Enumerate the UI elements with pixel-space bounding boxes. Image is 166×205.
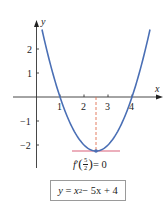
y-tick-label: 1 <box>27 68 32 79</box>
x-tick-label: 1 <box>57 101 62 112</box>
y-axis-label: y <box>40 16 46 27</box>
x-axis-arrow-icon <box>156 95 163 100</box>
critical-point-annotation: f′(52) = 0 <box>73 155 117 173</box>
denominator: 2 <box>84 165 87 172</box>
y-axis-arrow-icon <box>34 20 39 27</box>
eq-lhs: y <box>58 185 63 196</box>
vertex-point <box>94 149 98 153</box>
equation-box: y = x2 − 5x + 4 <box>50 180 126 201</box>
y-tick-label: 2 <box>27 44 32 55</box>
equals-zero: = 0 <box>93 159 107 170</box>
eq-rest: − 5x + 4 <box>82 185 117 196</box>
y-tick-label: −2 <box>20 140 31 151</box>
x-tick-label: 4 <box>129 101 134 112</box>
graph: 1 2 3 4 2 1 −1 −2 x y <box>0 0 166 205</box>
paren-open: ( <box>78 159 82 169</box>
y-tick-label: −1 <box>20 116 31 127</box>
fraction: 52 <box>83 157 88 171</box>
x-tick-label: 3 <box>105 101 110 112</box>
x-axis-label: x <box>154 83 160 94</box>
x-tick-label: 2 <box>81 101 86 112</box>
